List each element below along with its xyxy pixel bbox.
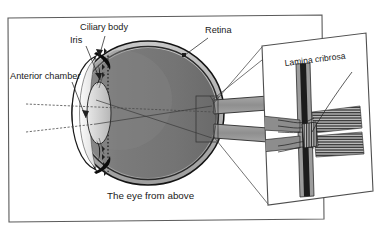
retina-marker — [182, 53, 186, 57]
nerve-fibres-lower-right — [314, 132, 364, 157]
eye-anatomy-figure: Anterior chamber Iris Ciliary body Retin… — [0, 0, 374, 238]
label-anterior-chamber: Anterior chamber — [10, 71, 80, 81]
figure-caption: The eye from above — [107, 190, 195, 201]
label-ciliary-body: Ciliary body — [80, 22, 128, 32]
figure-canvas: Anterior chamber Iris Ciliary body Retin… — [0, 0, 374, 238]
label-iris: Iris — [70, 35, 83, 45]
inset-panel: Lamina cribrosa — [262, 33, 373, 205]
lens — [87, 82, 111, 144]
label-retina: Retina — [205, 25, 232, 35]
